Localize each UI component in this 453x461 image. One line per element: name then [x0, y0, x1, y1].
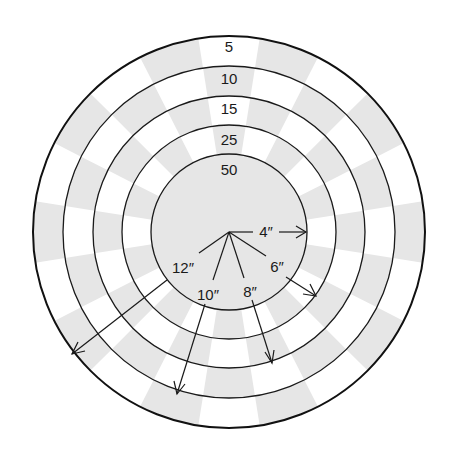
score-label-25: 25	[221, 131, 238, 148]
score-label-15: 15	[221, 100, 238, 117]
radius-label-12in: 12″	[172, 259, 195, 276]
target-diagram: 5 10 15 25 50 4″ 6″ 8″ 10″ 12″	[0, 0, 453, 461]
radius-label-8in: 8″	[243, 283, 257, 300]
score-label-50: 50	[221, 161, 238, 178]
score-label-10: 10	[221, 70, 238, 87]
radius-label-10in: 10″	[197, 286, 220, 303]
radius-label-4in: 4″	[259, 223, 273, 240]
score-label-5: 5	[225, 38, 233, 55]
radius-label-6in: 6″	[270, 258, 284, 275]
